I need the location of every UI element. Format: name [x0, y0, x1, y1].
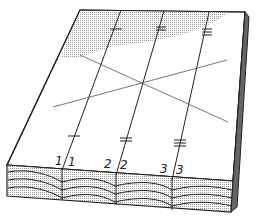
face-label: 2	[104, 157, 112, 171]
face-label: 2	[120, 158, 128, 172]
face-label: 3	[176, 163, 184, 177]
board-diagram: 1 1 2 2 3 3	[0, 0, 261, 218]
face-label: 3	[160, 162, 168, 176]
face-label: 1	[55, 154, 63, 168]
face-label: 1	[68, 155, 76, 169]
